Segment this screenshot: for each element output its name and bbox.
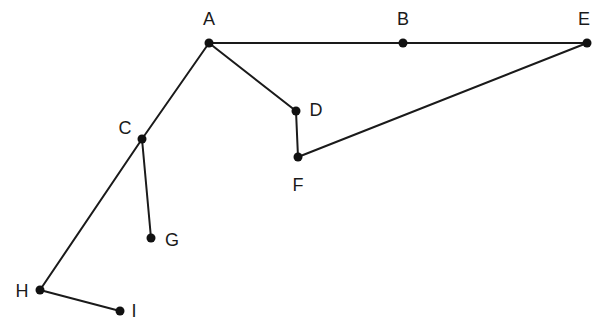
node-label-e: E	[578, 9, 590, 29]
node-e	[583, 39, 592, 48]
graph-diagram: ABEDFCGHI	[0, 0, 602, 329]
node-label-b: B	[397, 9, 409, 29]
edge-c-g	[142, 139, 151, 238]
edge-f-e	[298, 43, 587, 157]
node-label-c: C	[119, 118, 132, 138]
node-a	[205, 39, 214, 48]
node-label-i: I	[131, 301, 136, 321]
nodes-group	[36, 39, 592, 316]
node-label-d: D	[310, 100, 323, 120]
edge-a-c	[142, 43, 209, 139]
node-b	[399, 39, 408, 48]
edge-a-d	[209, 43, 296, 111]
node-c	[138, 135, 147, 144]
edges-group	[40, 43, 587, 311]
node-h	[36, 286, 45, 295]
edge-d-f	[296, 111, 298, 157]
node-label-h: H	[16, 281, 29, 301]
node-label-g: G	[165, 230, 179, 250]
node-f	[294, 153, 303, 162]
node-g	[147, 234, 156, 243]
edge-h-i	[40, 290, 120, 311]
labels-group: ABEDFCGHI	[16, 9, 591, 321]
node-label-f: F	[293, 175, 304, 195]
node-i	[116, 307, 125, 316]
node-label-a: A	[203, 9, 215, 29]
node-d	[292, 107, 301, 116]
edge-c-h	[40, 139, 142, 290]
